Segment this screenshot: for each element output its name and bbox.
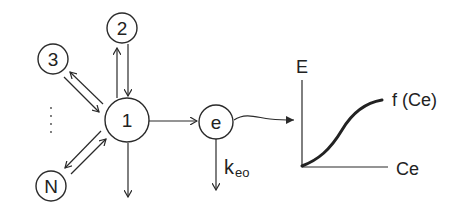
svg-text:2: 2	[117, 18, 128, 39]
effect-graph: E Ce f (Ce)	[296, 57, 437, 179]
ellipsis-dots	[50, 107, 52, 133]
compartment-1: 1	[105, 98, 149, 142]
keo-label: keo	[224, 156, 249, 180]
y-axis-label: E	[296, 57, 308, 77]
concentration-effect-curve	[302, 100, 382, 166]
compartment-2: 2	[107, 13, 137, 43]
x-axis-label: Ce	[396, 159, 419, 179]
svg-text:1: 1	[122, 110, 133, 131]
svg-text:N: N	[44, 176, 58, 197]
svg-text:e: e	[211, 112, 222, 133]
pk-pd-diagram: 2 3 1 N e keo E Ce f (Ce)	[0, 0, 463, 211]
arrow-e-to-graph	[234, 116, 294, 120]
compartment-N: N	[36, 171, 66, 201]
compartment-3: 3	[38, 44, 68, 74]
effect-compartment-e: e	[199, 105, 233, 139]
svg-text:3: 3	[48, 49, 59, 70]
curve-label: f (Ce)	[392, 90, 437, 110]
